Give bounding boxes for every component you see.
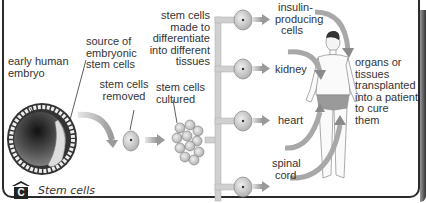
label-line: cells [275,25,323,37]
label-transplant: organs or tissues transplanted into a pa… [355,57,418,126]
label-line: stem cells [96,79,152,91]
label-line: them [355,115,418,127]
label-differentiate: stem cells made to differentiate into di… [140,10,210,68]
arrow-icon [145,137,157,143]
pointer-line [70,60,86,120]
label-line: embryo [8,68,69,80]
label-insulin: insulin- producing cells [275,2,323,37]
label-heart: heart [278,115,303,127]
label-line: organs or [355,57,418,69]
differentiated-cells [234,10,270,197]
label-line: to cure [355,103,418,115]
label-spinal-cord: spinal cord [272,158,301,181]
label-line: cord [272,170,301,182]
label-cultured: stem cells cultured [156,82,205,105]
human-figure [306,31,360,178]
figure-caption: C Stem cells [14,181,95,199]
cultured-cells-cluster [172,120,204,165]
label-line: insulin- [275,2,323,14]
label-line: tissues [140,56,210,68]
label-line: early human [8,56,69,68]
label-line: differentiate [140,33,210,45]
label-line: transplanted [355,80,418,92]
label-line: spinal [272,158,301,170]
embryo-illustration [7,103,77,175]
house-letter-icon: C [14,181,28,199]
label-line: stem cells [86,59,137,71]
arrow-icon [78,115,112,140]
label-line: stem cells [140,10,210,22]
label-line: source of [86,36,137,48]
label-removed: stem cells removed [96,79,152,102]
arrow-icon [106,140,118,148]
label-line: stem cells [156,82,205,94]
label-early-embryo: early human embryo [8,56,69,79]
label-line: removed [96,91,152,103]
caption-title: Stem cells [38,184,95,197]
label-source: source of embryonic stem cells [86,36,137,71]
caption-letter: C [14,187,28,199]
label-kidney: kidney [275,64,307,76]
label-line: cultured [156,94,205,106]
